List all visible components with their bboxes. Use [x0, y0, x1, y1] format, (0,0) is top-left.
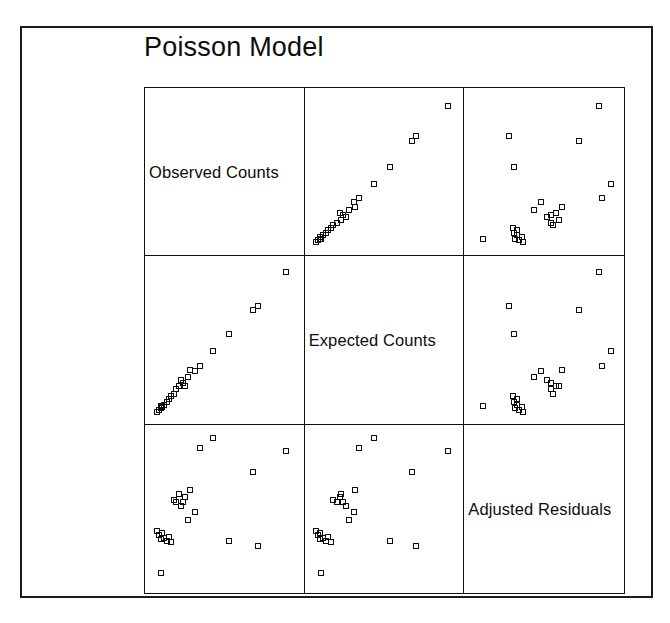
data-point-marker: [559, 367, 565, 373]
scatterplot-matrix: Observed Counts Expected Counts Adjusted…: [144, 87, 625, 594]
panel-observed-vs-residual[interactable]: [464, 88, 624, 256]
data-point-marker: [371, 435, 377, 441]
scatter-layer: [305, 425, 464, 593]
data-point-marker: [596, 269, 602, 275]
data-point-marker: [352, 487, 358, 493]
data-point-marker: [445, 103, 451, 109]
data-point-marker: [599, 195, 605, 201]
data-point-marker: [548, 220, 554, 226]
data-point-marker: [409, 138, 415, 144]
data-point-marker: [226, 331, 232, 337]
data-point-marker: [318, 236, 324, 242]
data-point-marker: [283, 448, 289, 454]
data-point-marker: [576, 307, 582, 313]
data-point-marker: [553, 210, 559, 216]
data-point-marker: [409, 469, 415, 475]
scatter-layer: [305, 88, 464, 255]
data-point-marker: [255, 303, 261, 309]
data-point-marker: [185, 374, 191, 380]
data-point-marker: [182, 494, 188, 500]
data-point-marker: [510, 225, 516, 231]
data-point-marker: [250, 469, 256, 475]
data-point-marker: [180, 499, 186, 505]
panel-expected-vs-observed[interactable]: [145, 256, 305, 424]
data-point-marker: [318, 570, 324, 576]
data-point-marker: [158, 570, 164, 576]
data-point-marker: [413, 543, 419, 549]
panel-observed-observed: Observed Counts: [145, 88, 305, 256]
data-point-marker: [538, 199, 544, 205]
data-point-marker: [185, 517, 191, 523]
data-point-marker: [346, 517, 352, 523]
data-point-marker: [506, 133, 512, 139]
data-point-marker: [510, 393, 516, 399]
panel-expected-vs-residual[interactable]: [464, 256, 624, 424]
data-point-marker: [559, 204, 565, 210]
data-point-marker: [328, 539, 334, 545]
data-point-marker: [413, 133, 419, 139]
data-point-marker: [197, 445, 203, 451]
data-point-marker: [192, 368, 198, 374]
figure-root: Poisson Model Observed Counts Expected C…: [0, 0, 670, 623]
data-point-marker: [176, 491, 182, 497]
panel-residual-residual: Adjusted Residuals: [464, 425, 624, 593]
scatter-layer: [145, 256, 304, 423]
data-point-marker: [531, 207, 537, 213]
panel-residual-vs-expected[interactable]: [305, 425, 465, 593]
diagonal-label-expected-counts: Expected Counts: [309, 330, 436, 349]
data-point-marker: [599, 363, 605, 369]
data-point-marker: [371, 181, 377, 187]
data-point-marker: [182, 383, 188, 389]
data-point-marker: [576, 138, 582, 144]
data-point-marker: [210, 435, 216, 441]
scatter-layer: [145, 425, 304, 593]
data-point-marker: [226, 538, 232, 544]
data-point-marker: [352, 204, 358, 210]
data-point-marker: [596, 103, 602, 109]
data-point-marker: [192, 509, 198, 515]
data-point-marker: [337, 494, 343, 500]
data-point-marker: [187, 487, 193, 493]
data-point-marker: [158, 403, 164, 409]
data-point-marker: [553, 383, 559, 389]
panel-expected-expected: Expected Counts: [305, 256, 465, 424]
data-point-marker: [608, 348, 614, 354]
data-point-marker: [480, 236, 486, 242]
data-point-marker: [337, 210, 343, 216]
data-point-marker: [356, 445, 362, 451]
data-point-marker: [531, 374, 537, 380]
data-point-marker: [506, 303, 512, 309]
diagonal-label-observed-counts: Observed Counts: [149, 162, 279, 181]
data-point-marker: [351, 509, 357, 515]
data-point-marker: [608, 181, 614, 187]
data-point-marker: [356, 195, 362, 201]
data-point-marker: [168, 539, 174, 545]
data-point-marker: [511, 164, 517, 170]
data-point-marker: [283, 269, 289, 275]
data-point-marker: [255, 543, 261, 549]
data-point-marker: [538, 368, 544, 374]
page-title: Poisson Model: [144, 30, 324, 64]
data-point-marker: [556, 217, 562, 223]
data-point-marker: [387, 164, 393, 170]
diagonal-label-adjusted-residuals: Adjusted Residuals: [468, 499, 611, 518]
data-point-marker: [480, 403, 486, 409]
scatter-layer: [464, 88, 624, 255]
panel-observed-vs-expected[interactable]: [305, 88, 465, 256]
panel-residual-vs-observed[interactable]: [145, 425, 305, 593]
data-point-marker: [511, 331, 517, 337]
data-point-marker: [210, 348, 216, 354]
data-point-marker: [340, 499, 346, 505]
data-point-marker: [445, 448, 451, 454]
data-point-marker: [197, 363, 203, 369]
data-point-marker: [387, 538, 393, 544]
scatter-layer: [464, 256, 624, 423]
